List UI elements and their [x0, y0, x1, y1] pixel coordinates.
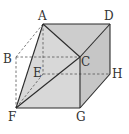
label-b: B: [3, 52, 12, 66]
label-c: C: [81, 55, 90, 69]
label-f: F: [8, 110, 16, 124]
label-g: G: [76, 110, 86, 124]
label-h: H: [112, 67, 122, 81]
cube-diagram: A D B C E H F G: [0, 0, 129, 134]
label-d: D: [104, 9, 114, 23]
label-e: E: [33, 66, 42, 80]
label-a: A: [37, 9, 47, 23]
